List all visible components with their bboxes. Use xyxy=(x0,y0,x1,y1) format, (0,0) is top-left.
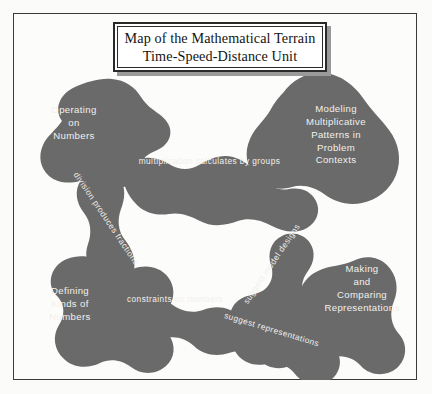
page-title-line-2: Time-Speed-Distance Unit xyxy=(143,47,297,65)
map-page: Map of the Mathematical Terrain Time-Spe… xyxy=(0,0,432,394)
page-title-line-1: Map of the Mathematical Terrain xyxy=(125,29,316,47)
terrain-landmass xyxy=(40,73,405,380)
region-shape-making-and-comparing xyxy=(291,257,405,374)
region-shape-modeling-multiplicative xyxy=(247,73,399,204)
title-box-inner-border: Map of the Mathematical Terrain Time-Spe… xyxy=(117,26,323,68)
title-box: Map of the Mathematical Terrain Time-Spe… xyxy=(113,22,327,72)
